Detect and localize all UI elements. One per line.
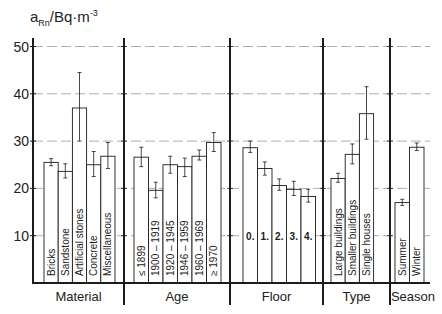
category-label: 1900 – 1919: [150, 220, 161, 276]
group-label-floor: Floor: [262, 289, 292, 304]
bar-floor-0: [243, 148, 258, 283]
bar-floor-1: [258, 169, 273, 283]
y-tick-label: 30: [13, 133, 29, 149]
category-label: Concrete: [88, 235, 99, 276]
category-label: Smaller buildings: [347, 200, 358, 276]
category-label: Single houses: [361, 213, 372, 276]
category-label: Artificial stones: [74, 209, 85, 276]
group-label-material: Material: [55, 289, 101, 304]
category-label: Winter: [411, 246, 422, 276]
y-tick-label: 20: [13, 180, 29, 196]
category-label: Bricks: [46, 249, 57, 276]
category-label: Sandstone: [60, 228, 71, 276]
category-label: 1920 – 1945: [165, 220, 176, 276]
category-label: Large buildings: [333, 208, 344, 276]
category-label: 1960 – 1969: [194, 220, 205, 276]
category-label: 1946 – 1959: [179, 220, 190, 276]
chart-canvas: BricksSandstoneArtificial stonesConcrete…: [0, 0, 442, 314]
group-label-age: Age: [165, 289, 188, 304]
category-label: Miscellaneous: [102, 213, 113, 276]
category-label: 1.: [261, 231, 270, 242]
y-tick-label: 40: [13, 86, 29, 102]
y-tick-label: 50: [13, 39, 29, 55]
group-label-type: Type: [342, 289, 370, 304]
category-label: 0.: [246, 231, 255, 242]
category-label: 4.: [304, 231, 313, 242]
category-label: ≤ 1899: [136, 245, 147, 276]
category-label: 3.: [290, 231, 299, 242]
category-label: ≥ 1970: [208, 245, 219, 276]
group-label-season: Season: [391, 289, 435, 304]
y-tick-label: 10: [13, 228, 29, 244]
category-label: Summer: [397, 238, 408, 276]
category-label: 2.: [275, 231, 284, 242]
